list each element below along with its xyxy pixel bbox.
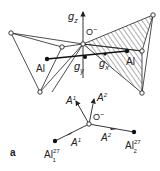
gx-point xyxy=(103,52,106,55)
al1-label: Al271 xyxy=(44,148,60,163)
al-atom-right xyxy=(125,49,129,53)
bond-a2 xyxy=(89,124,134,132)
hatched-tetrahedron-lower-face xyxy=(83,44,142,93)
vector-a1-label: A1 xyxy=(65,95,76,106)
oxygen-bottom-label: O− xyxy=(93,111,104,122)
al2-atom xyxy=(132,130,136,134)
crystal-structure-diagram: gz O− Al gy gx Al A1 A2 O− A1 A2 Al271 A… xyxy=(0,0,160,171)
oxygen-center-label: O− xyxy=(86,26,97,37)
al1-atom xyxy=(53,139,57,143)
bond-a2-label: A2 xyxy=(100,132,112,143)
gz-label: gz xyxy=(68,10,78,24)
al2-label: Al272 xyxy=(125,139,141,154)
al-right-label: Al xyxy=(126,56,135,67)
left-tetrahedron xyxy=(11,33,83,92)
vector-a1 xyxy=(76,101,89,124)
gy-point xyxy=(83,55,87,59)
bond-a1-label: A1 xyxy=(70,137,81,148)
oxygen-atom-bottom xyxy=(87,122,91,126)
vector-a2-label: A2 xyxy=(96,92,108,103)
al-left-label: Al xyxy=(36,63,45,74)
panel-label: a xyxy=(10,147,16,158)
al-atom-left xyxy=(45,57,49,61)
